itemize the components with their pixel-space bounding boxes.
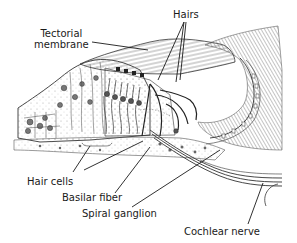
ganglion-curve — [265, 184, 278, 206]
label-tectorial-membrane: Tectorial membrane — [34, 28, 89, 50]
label-cochlear-nerve: Cochlear nerve — [184, 226, 260, 237]
label-basilar-fiber: Basilar fiber — [62, 192, 122, 203]
label-tectorial-line1: Tectorial — [34, 28, 89, 39]
basilar-membrane — [14, 137, 225, 160]
outer-wall-arc — [198, 26, 282, 150]
label-spiral-ganglion: Spiral ganglion — [82, 208, 157, 219]
label-hairs: Hairs — [173, 9, 199, 20]
hair-cell-region — [104, 68, 197, 136]
label-hair-cells: Hair cells — [27, 176, 73, 187]
label-tectorial-line2: membrane — [34, 39, 89, 50]
